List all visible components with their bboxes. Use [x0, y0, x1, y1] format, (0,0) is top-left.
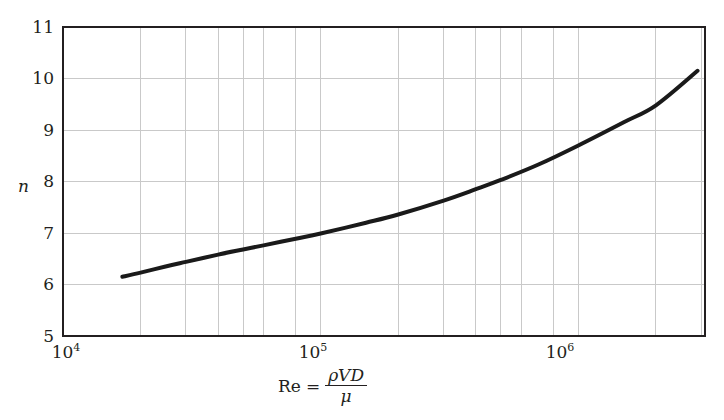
x-axis-title-lead: Re	[278, 376, 301, 396]
x-tick-exponent: 4	[73, 341, 80, 354]
y-tick-label: 7	[24, 225, 54, 242]
y-tick-label: 9	[24, 122, 54, 139]
figure-container: 11 10 9 8 7 6 5 n 104 105 106 Re = ρVD μ	[0, 0, 724, 420]
x-tick-base: 10	[546, 342, 568, 362]
horizontal-gridlines	[63, 79, 705, 285]
x-tick-exponent: 5	[320, 341, 327, 354]
x-tick-label: 104	[31, 344, 101, 361]
x-tick-base: 10	[299, 342, 321, 362]
x-axis-title: Re = ρVD μ	[278, 366, 367, 406]
x-tick-label: 105	[278, 344, 348, 361]
y-tick-label: 6	[24, 276, 54, 293]
reynolds-fraction: ρVD μ	[325, 366, 367, 406]
fraction-numerator: ρVD	[325, 366, 367, 385]
x-tick-base: 10	[52, 342, 74, 362]
x-tick-label: 106	[525, 344, 595, 361]
y-axis-title: n	[18, 176, 29, 196]
y-tick-label: 5	[24, 328, 54, 345]
chart-plot-area	[0, 0, 724, 420]
y-tick-label: 11	[24, 19, 54, 36]
data-curve	[122, 71, 697, 277]
fraction-denominator: μ	[338, 386, 355, 405]
x-axis-title-equals: =	[306, 376, 320, 396]
x-tick-exponent: 6	[567, 341, 574, 354]
y-tick-label: 10	[24, 70, 54, 87]
